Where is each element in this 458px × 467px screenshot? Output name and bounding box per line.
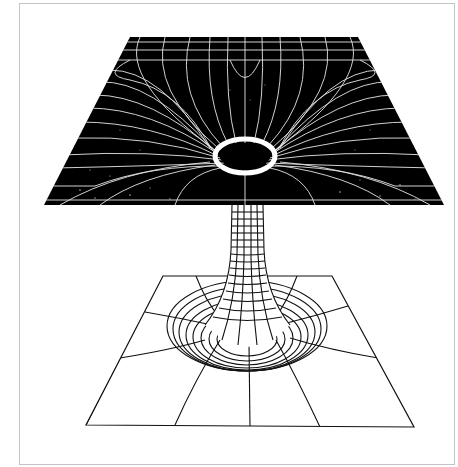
upper-sheet (44, 37, 444, 205)
wormhole-diagram (0, 0, 458, 467)
wormhole-mouth (220, 143, 270, 169)
